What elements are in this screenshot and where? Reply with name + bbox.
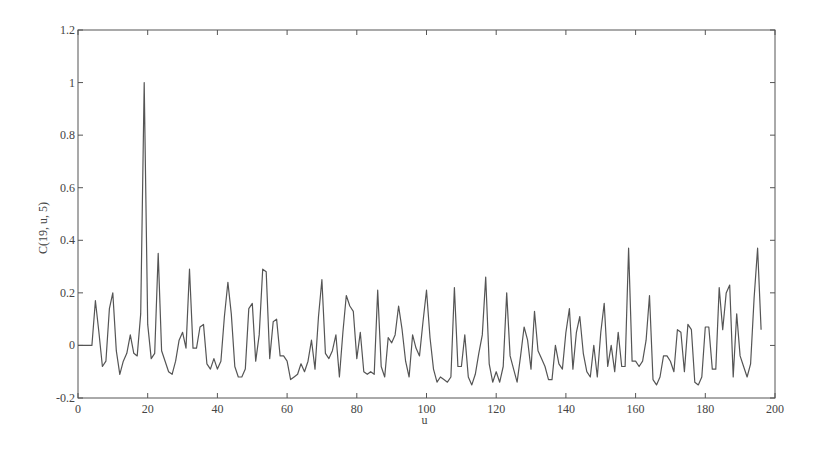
y-tick-label: 1 (69, 76, 75, 90)
x-axis-label: u (422, 413, 428, 427)
x-tick-label: 40 (211, 402, 223, 416)
x-tick-label: 180 (696, 402, 714, 416)
x-tick-label: 200 (766, 402, 784, 416)
y-tick-label: -0.2 (56, 391, 75, 405)
x-tick-label: 20 (142, 402, 154, 416)
x-tick-label: 160 (627, 402, 645, 416)
y-tick-label: 0.8 (60, 128, 75, 142)
x-tick-label: 60 (281, 402, 293, 416)
line-chart: 020406080100120140160180200 -0.200.20.40… (0, 0, 817, 452)
series-line (78, 83, 761, 385)
x-tick-label: 140 (557, 402, 575, 416)
y-tick-label: 0.2 (60, 286, 75, 300)
x-tick-label: 0 (75, 402, 81, 416)
x-tick-label: 120 (487, 402, 505, 416)
x-axis-ticks: 020406080100120140160180200 (75, 30, 784, 416)
chart-canvas: 020406080100120140160180200 -0.200.20.40… (0, 0, 817, 452)
y-tick-label: 0.4 (60, 233, 75, 247)
x-tick-label: 80 (351, 402, 363, 416)
axes-frame (78, 30, 775, 398)
y-tick-label: 1.2 (60, 23, 75, 37)
y-axis-label: C(19, u, 5) (36, 202, 50, 254)
y-tick-label: 0.6 (60, 181, 75, 195)
y-tick-label: 0 (69, 338, 75, 352)
